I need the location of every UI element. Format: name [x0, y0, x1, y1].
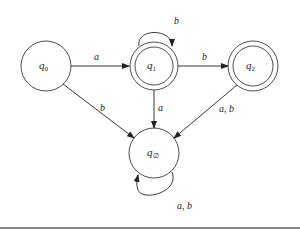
svg-text:q0: q0: [39, 59, 49, 73]
transition-q2-qempty: a, b: [174, 85, 237, 138]
transition-qempty-loop: a, b: [137, 172, 192, 211]
transition-q1-q2: b: [178, 51, 228, 66]
svg-text:b: b: [202, 51, 207, 62]
state-q1: q1: [130, 42, 178, 90]
dfa-diagram: q0 q1 q2 q∅ a b b b a a, b: [0, 0, 300, 230]
svg-text:a: a: [158, 102, 163, 113]
svg-text:a: a: [94, 51, 99, 62]
svg-text:b: b: [100, 102, 105, 113]
transition-q0-qempty: b: [63, 84, 134, 138]
state-q2: q2: [228, 41, 278, 91]
svg-text:q2: q2: [246, 59, 256, 73]
state-qempty: q∅: [129, 128, 179, 178]
svg-text:q1: q1: [147, 59, 157, 73]
svg-text:q∅: q∅: [147, 146, 159, 160]
svg-text:b: b: [174, 15, 179, 26]
transition-q0-q1: a: [71, 51, 129, 66]
transition-q1-loop: b: [139, 15, 179, 46]
svg-text:a, b: a, b: [219, 103, 234, 114]
svg-text:a, b: a, b: [177, 200, 192, 211]
transition-q1-qempty: a: [154, 90, 163, 128]
state-q0: q0: [21, 41, 71, 91]
